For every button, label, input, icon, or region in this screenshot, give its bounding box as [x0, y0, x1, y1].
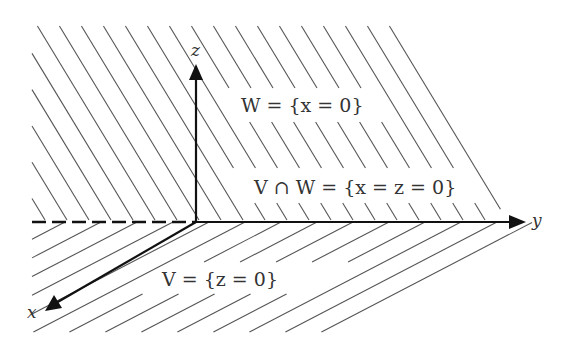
intersection-label: V ∩ W = {x = z = 0} — [253, 176, 456, 198]
y-axis-label: y — [531, 210, 542, 230]
planes-diagram: z y x W = {x = 0} V ∩ W = {x = z = 0} V … — [0, 0, 575, 355]
z-axis-label: z — [190, 40, 201, 60]
x-axis-label: x — [27, 302, 37, 322]
x-axis-arrowhead-icon — [45, 295, 62, 311]
z-axis-arrowhead-icon — [189, 64, 203, 80]
v-plane-hatching — [32, 223, 532, 333]
w-plane-label: W = {x = 0} — [241, 94, 364, 116]
v-plane-label: V = {z = 0} — [161, 268, 278, 290]
